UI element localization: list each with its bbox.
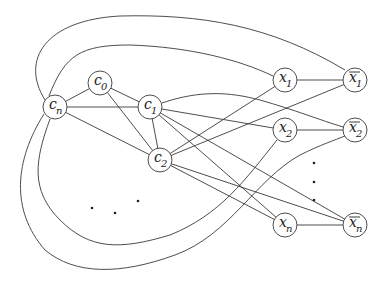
edge-cn-x1 <box>49 45 273 96</box>
node-xnbar: xn <box>343 213 367 237</box>
curved-edges <box>20 16 345 270</box>
graph-svg: cnc0c1c2x1x1x2x2xnxn <box>0 0 379 285</box>
node-xn: xn <box>273 213 297 237</box>
node-c0: c0 <box>88 71 112 95</box>
node-c2: c2 <box>148 148 172 172</box>
node-subscript: n <box>286 223 292 234</box>
node-subscript: 1 <box>151 105 157 116</box>
ellipsis-dot <box>91 207 94 210</box>
graph-nodes: cnc0c1c2x1x1x2x2xnxn <box>43 68 367 237</box>
node-x1: x1 <box>273 68 297 92</box>
edge-cn-x2 <box>38 119 277 245</box>
node-subscript: n <box>56 105 62 116</box>
node-cn: cn <box>43 95 67 119</box>
ellipsis-dots <box>91 162 316 215</box>
node-subscript: 1 <box>286 78 292 89</box>
node-subscript: 2 <box>160 158 167 169</box>
straight-edges <box>55 80 355 225</box>
node-subscript: 2 <box>285 128 292 139</box>
node-subscript: 0 <box>101 81 108 92</box>
node-c1: c1 <box>138 95 162 119</box>
node-x2: x2 <box>273 118 297 142</box>
ellipsis-dot <box>313 181 316 184</box>
edge-cn-x1bar <box>36 16 345 100</box>
ellipsis-dot <box>313 162 316 165</box>
edge-c2-xnbar <box>160 160 355 225</box>
reduction-graph-diagram: cnc0c1c2x1x1x2x2xnxn <box>0 0 379 285</box>
ellipsis-dot <box>137 200 140 203</box>
node-subscript: n <box>356 223 362 234</box>
edge-c2-xn <box>160 160 285 225</box>
edge-c2-x1bar <box>160 80 355 160</box>
node-subscript: 2 <box>355 128 362 139</box>
ellipsis-dot <box>313 199 316 202</box>
ellipsis-dot <box>114 212 117 215</box>
edge-c0-c2 <box>100 83 160 160</box>
edge-c2-x1 <box>160 80 285 160</box>
node-subscript: 1 <box>356 78 362 89</box>
node-x1bar: x1 <box>343 68 367 92</box>
node-x2bar: x2 <box>343 118 367 142</box>
